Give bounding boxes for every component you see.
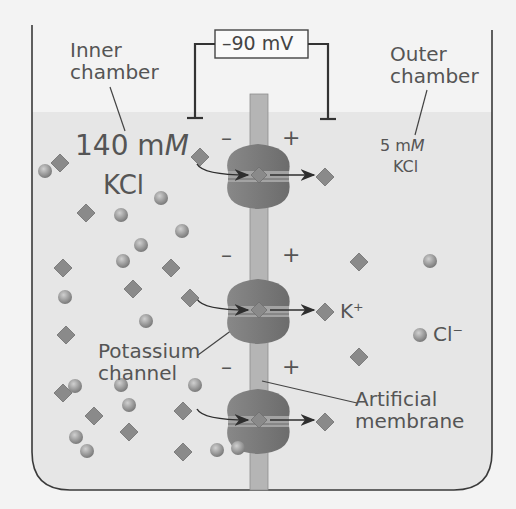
- chloride-ion: [68, 379, 82, 393]
- negative-charge-sign: –: [221, 242, 232, 267]
- inner-concentration-unit: M: [165, 129, 189, 162]
- chloride-ion: [114, 208, 128, 222]
- chloride-ion: [69, 430, 83, 444]
- outer-concentration-unit: M: [411, 136, 425, 155]
- artificial-membrane-callout-line1: Artificial: [355, 388, 464, 410]
- potassium-channel-callout-line1: Potassium: [98, 340, 200, 362]
- chloride-ion-label: Cl⁻: [433, 323, 463, 345]
- outer-chamber-label-line1: Outer: [390, 43, 479, 65]
- outer-chamber-label-line2: chamber: [390, 65, 479, 87]
- chloride-ion: [413, 328, 427, 342]
- potassium-channel-callout-line2: channel: [98, 362, 200, 384]
- positive-charge-sign: +: [282, 354, 300, 379]
- inner-concentration: 140 mM: [75, 130, 189, 161]
- artificial-membrane-callout: Artificial membrane: [355, 388, 464, 433]
- chloride-ion: [80, 444, 94, 458]
- chloride-ion: [231, 441, 245, 455]
- chloride-ion: [116, 254, 130, 268]
- outer-chamber-label: Outer chamber: [390, 43, 479, 88]
- inner-solute: KCl: [103, 171, 144, 200]
- chloride-ion: [134, 238, 148, 252]
- outer-solute: KCl: [393, 158, 418, 176]
- potassium-channel-callout: Potassium channel: [98, 340, 200, 385]
- chloride-ion: [423, 254, 437, 268]
- chloride-ion: [139, 314, 153, 328]
- outer-concentration: 5 mM: [380, 137, 425, 155]
- positive-charge-sign: +: [282, 242, 300, 267]
- inner-concentration-value: 140 m: [75, 129, 165, 162]
- chloride-ion: [175, 224, 189, 238]
- potassium-ion-label: K⁺: [340, 300, 364, 322]
- chloride-ion: [154, 191, 168, 205]
- chloride-ion: [210, 443, 224, 457]
- chloride-ion: [38, 164, 52, 178]
- artificial-membrane-callout-line2: membrane: [355, 410, 464, 432]
- negative-charge-sign: –: [221, 125, 232, 150]
- chloride-ion: [122, 398, 136, 412]
- chloride-ion: [58, 290, 72, 304]
- potassium-channel-diagram: –90 mV Inner chamber 140 mM KCl Outer ch…: [0, 0, 516, 509]
- outer-concentration-value: 5 m: [380, 136, 411, 155]
- inner-chamber-label: Inner chamber: [70, 39, 159, 84]
- positive-charge-sign: +: [282, 125, 300, 150]
- inner-chamber-label-line1: Inner: [70, 39, 159, 61]
- inner-chamber-label-line2: chamber: [70, 61, 159, 83]
- voltmeter-reading: –90 mV: [222, 33, 293, 54]
- negative-charge-sign: –: [221, 354, 232, 379]
